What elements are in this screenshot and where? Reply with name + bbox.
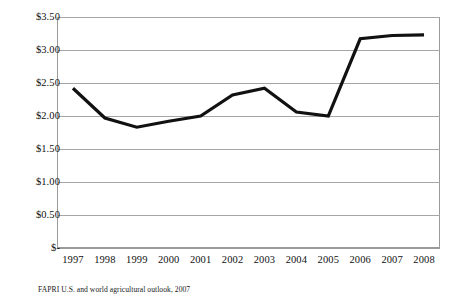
line-chart-figure: $-$0.50$1.00$1.50$2.00$2.50$3.00$3.50 19…: [0, 0, 456, 304]
data-series-group: [0, 0, 456, 304]
price-series-line: [73, 35, 424, 127]
source-note: FAPRI U.S. and world agricultural outloo…: [38, 285, 190, 294]
